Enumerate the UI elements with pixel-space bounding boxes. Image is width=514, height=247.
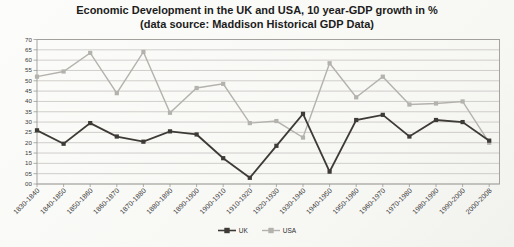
data-point-uk [35, 128, 39, 132]
data-point-usa [195, 86, 199, 90]
y-tick-label: 65 [25, 46, 32, 53]
y-tick-label: 50 [25, 77, 32, 84]
x-tick-label: 1850-1860 [65, 187, 94, 216]
x-tick-label: 1990-2000 [438, 187, 467, 216]
data-point-usa [221, 82, 225, 86]
data-point-usa [115, 91, 119, 95]
x-tick-label: 1980-1990 [411, 187, 440, 216]
legend-label-usa: USA [283, 227, 296, 234]
data-point-usa [461, 99, 465, 103]
x-tick-label: 1890-1900 [172, 187, 201, 216]
series-line-uk [37, 114, 489, 178]
legend-marker-usa-icon [262, 227, 280, 234]
y-tick-label: 25 [25, 128, 32, 135]
y-tick-label: 40 [25, 97, 32, 104]
x-tick-label: 1910-1920 [225, 187, 254, 216]
data-point-usa [141, 50, 145, 54]
legend-marker-uk-icon [218, 227, 236, 234]
legend: UK USA [0, 227, 514, 234]
x-tick-label: 1970-1980 [384, 187, 413, 216]
y-tick-label: 10 [25, 159, 32, 166]
x-tick-label: 1830-1840 [12, 187, 41, 216]
x-tick-label: 1860-1870 [92, 187, 121, 216]
data-point-usa [407, 102, 411, 106]
y-tick-label: 35 [25, 108, 32, 115]
data-point-usa [354, 95, 358, 99]
data-point-uk [328, 170, 332, 174]
y-tick-label: 20 [25, 139, 32, 146]
data-point-uk [195, 132, 199, 136]
data-point-uk [381, 113, 385, 117]
x-tick-label: 1870-1880 [118, 187, 147, 216]
data-point-uk [301, 112, 305, 116]
x-tick-label: 1960-1970 [358, 187, 387, 216]
y-tick-label: 70 [25, 36, 32, 43]
y-tick-label: 45 [25, 87, 32, 94]
data-point-uk [461, 120, 465, 124]
data-point-usa [62, 69, 66, 73]
data-point-uk [62, 142, 66, 146]
data-point-usa [328, 61, 332, 65]
x-tick-label: 1940-1950 [305, 187, 334, 216]
data-point-uk [248, 176, 252, 180]
x-tick-label: 1880-1890 [145, 187, 174, 216]
y-tick-label: 55 [25, 66, 32, 73]
data-point-usa [248, 121, 252, 125]
legend-label-uk: UK [239, 227, 248, 234]
x-tick-label: 1920-1930 [251, 187, 280, 216]
data-point-uk [168, 129, 172, 133]
data-point-usa [274, 119, 278, 123]
x-tick-label: 2000-2008 [464, 187, 493, 216]
y-tick-label: 60 [25, 56, 32, 63]
y-tick-label: 05 [25, 170, 32, 177]
data-point-usa [381, 75, 385, 79]
data-point-uk [141, 140, 145, 144]
data-point-usa [434, 101, 438, 105]
data-point-uk [115, 134, 119, 138]
data-point-uk [434, 118, 438, 122]
data-point-usa [35, 75, 39, 79]
legend-item-uk: UK [218, 227, 248, 234]
data-point-usa [88, 51, 92, 55]
data-point-usa [301, 135, 305, 139]
x-tick-label: 1930-1940 [278, 187, 307, 216]
chart-figure: Economic Development in the UK and USA, … [0, 0, 514, 247]
data-point-uk [487, 139, 491, 143]
legend-item-usa: USA [262, 227, 296, 234]
data-point-uk [354, 118, 358, 122]
data-point-uk [88, 121, 92, 125]
x-tick-label: 1900-1910 [198, 187, 227, 216]
y-tick-label: 30 [25, 118, 32, 125]
data-point-usa [168, 111, 172, 115]
x-tick-label: 1840-1850 [39, 187, 68, 216]
x-tick-label: 1950-1960 [331, 187, 360, 216]
data-point-uk [407, 134, 411, 138]
data-point-uk [221, 156, 225, 160]
plot-canvas: 0005101520253035404550556065701830-18401… [0, 0, 514, 247]
y-tick-label: 15 [25, 149, 32, 156]
data-point-uk [274, 144, 278, 148]
y-tick-label: 00 [25, 180, 32, 187]
